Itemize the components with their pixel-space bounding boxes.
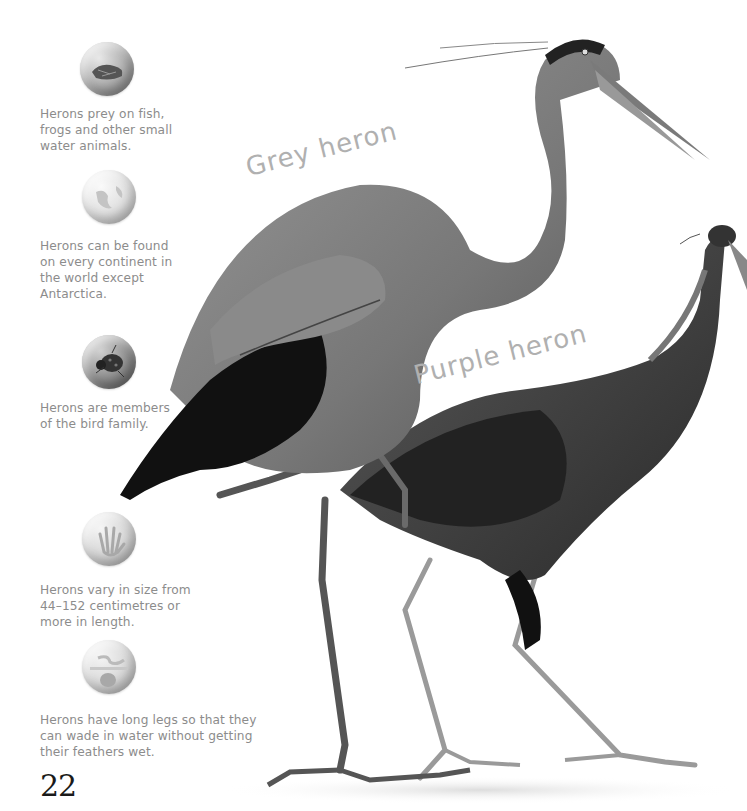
habitat-icon — [82, 640, 136, 694]
page-number: 22 — [40, 768, 76, 803]
fact-text: Herons are members of the bird family. — [40, 400, 170, 432]
fact-text: Herons have long legs so that they can w… — [40, 712, 257, 760]
fact-text: Herons vary in size from 44–152 centimet… — [40, 582, 191, 630]
food-fish-icon — [80, 42, 134, 96]
globe-icon — [82, 170, 136, 224]
fact-text: Herons prey on fish, frogs and other sma… — [40, 106, 172, 154]
ladybird-icon — [82, 335, 136, 389]
fact-text: Herons can be found on every continent i… — [40, 238, 172, 302]
hand-size-icon — [82, 512, 136, 566]
